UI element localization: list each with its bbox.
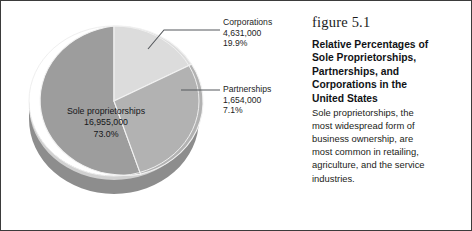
- pie-chart-panel: Corporations 4,631,000 19.9% Partnership…: [1, 1, 297, 230]
- callout-corporations-value: 4,631,000: [223, 28, 272, 39]
- figure-container: Corporations 4,631,000 19.9% Partnership…: [0, 0, 472, 231]
- figure-title-line: Corporations in the: [312, 78, 462, 91]
- pie-slices: [40, 26, 203, 175]
- callout-corporations-name: Corporations: [223, 17, 272, 28]
- figure-title-line: United States: [312, 92, 462, 105]
- slice-label-sole-value: 16,955,000: [31, 117, 181, 128]
- callout-corporations-percent: 19.9%: [223, 38, 272, 49]
- figure-title-line: Sole Proprietorships,: [312, 51, 462, 64]
- figure-title-line: Partnerships, and: [312, 65, 462, 78]
- slice-label-sole-proprietorships: Sole proprietorships 16,955,000 73.0%: [31, 106, 181, 140]
- figure-caption-line: agriculture, and the service: [312, 158, 462, 171]
- callout-partnerships-name: Partnerships: [223, 84, 271, 95]
- figure-caption-line: industries.: [312, 172, 462, 185]
- figure-caption: Sole proprietorships, the most widesprea…: [312, 106, 462, 185]
- figure-caption-line: business ownership, are: [312, 132, 462, 145]
- callout-partnerships-value: 1,654,000: [223, 95, 271, 106]
- figure-caption-line: most widespread form of: [312, 119, 462, 132]
- figure-title: Relative Percentages of Sole Proprietors…: [312, 38, 462, 105]
- figure-title-line: Relative Percentages of: [312, 38, 462, 51]
- callout-partnerships: Partnerships 1,654,000 7.1%: [223, 84, 271, 116]
- callout-partnerships-percent: 7.1%: [223, 105, 271, 116]
- slice-label-sole-percent: 73.0%: [31, 129, 181, 140]
- figure-caption-line: Sole proprietorships, the: [312, 106, 462, 119]
- callout-corporations: Corporations 4,631,000 19.9%: [223, 17, 272, 49]
- figure-caption-line: most common in retailing,: [312, 145, 462, 158]
- slice-label-sole-name: Sole proprietorships: [31, 106, 181, 117]
- figure-text-panel: figure 5.1 Relative Percentages of Sole …: [312, 1, 462, 230]
- figure-number-label: figure 5.1: [312, 14, 462, 30]
